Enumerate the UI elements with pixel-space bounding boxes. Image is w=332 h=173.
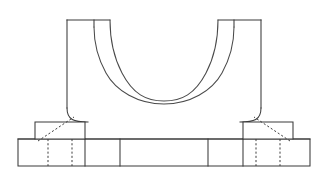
bearing-bracket-drawing [0, 0, 332, 173]
drawing-canvas [0, 0, 332, 173]
drawing-background [0, 0, 332, 173]
boss-pad-right-fill [243, 122, 293, 139]
boss-pad-left-fill [35, 122, 85, 139]
